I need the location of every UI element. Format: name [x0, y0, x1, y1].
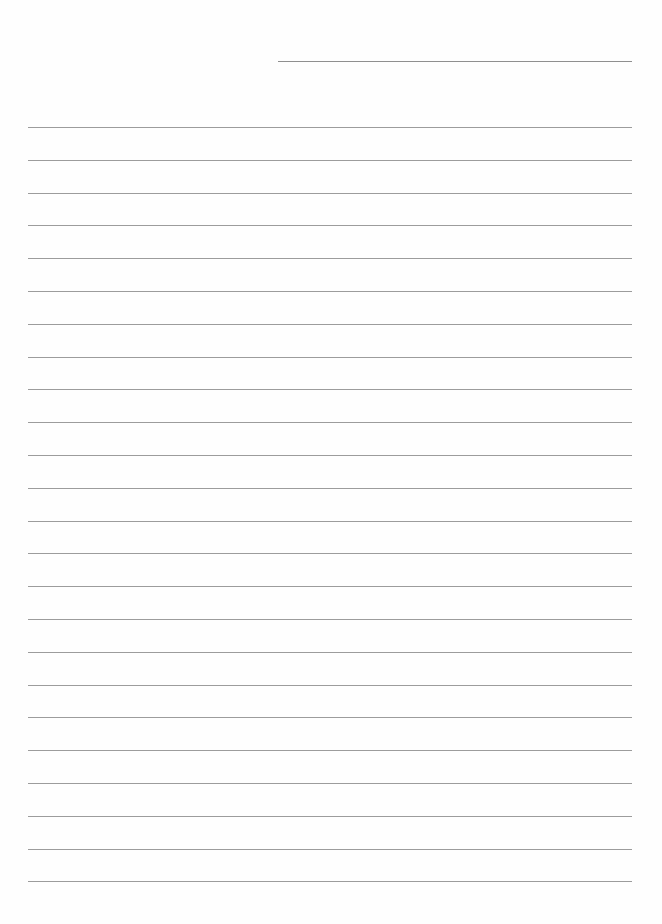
ruled-line: [28, 849, 632, 850]
ruled-line: [28, 160, 632, 161]
ruled-line: [28, 881, 632, 882]
ruled-line: [28, 652, 632, 653]
ruled-line: [28, 324, 632, 325]
ruled-line: [28, 586, 632, 587]
ruled-line: [28, 127, 632, 128]
ruled-line: [28, 816, 632, 817]
ruled-line: [28, 783, 632, 784]
ruled-line: [28, 291, 632, 292]
ruled-line: [28, 521, 632, 522]
ruled-line: [28, 258, 632, 259]
ruled-line: [28, 619, 632, 620]
ruled-line: [28, 553, 632, 554]
ruled-line: [28, 193, 632, 194]
lined-paper-page: [0, 0, 662, 924]
ruled-line: [28, 225, 632, 226]
date-line: [278, 61, 632, 62]
ruled-line: [28, 717, 632, 718]
ruled-line: [28, 357, 632, 358]
ruled-line: [28, 455, 632, 456]
ruled-line: [28, 750, 632, 751]
ruled-line: [28, 422, 632, 423]
ruled-line: [28, 488, 632, 489]
ruled-line: [28, 389, 632, 390]
ruled-line: [28, 685, 632, 686]
